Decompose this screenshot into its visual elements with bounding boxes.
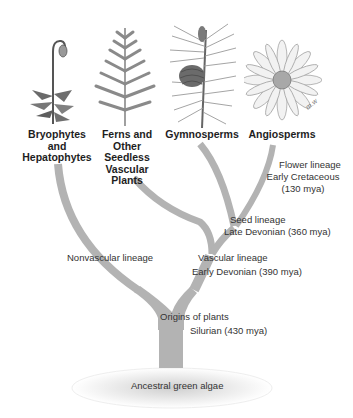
flower-lineage-date: (130 mya)	[256, 183, 350, 195]
vascular-lineage-period: Early Devonian (390 mya)	[192, 266, 302, 278]
vascular-lineage-note: Vascular lineage Early Devonian (390 mya…	[198, 252, 302, 278]
ancestral-algae-label: Ancestral green algae	[131, 380, 223, 391]
origins-label: Origins of plants	[160, 311, 267, 323]
nonvascular-lineage-note: Nonvascular lineage	[67, 252, 153, 264]
vascular-lineage-label: Vascular lineage	[198, 252, 302, 264]
origins-note: Origins of plants Silurian (430 mya)	[160, 311, 267, 337]
seed-lineage-label: Seed lineage	[229, 214, 331, 226]
group-label-bryophytes: Bryophytes and Hepatophytes	[12, 129, 102, 164]
plant-phylogeny-diagram: m.w Bryophytes and Hepatophytes Ferns	[0, 0, 353, 418]
flower-lineage-label: Flower lineage	[256, 159, 350, 171]
group-label-angiosperms: Angiosperms	[240, 129, 324, 141]
group-label-gymnosperms: Gymnosperms	[160, 129, 244, 141]
seed-lineage-period: Late Devonian (360 mya)	[224, 226, 331, 238]
group-label-ferns: Ferns and Other Seedless Vascular Plants	[96, 129, 158, 187]
origins-period: Silurian (430 mya)	[190, 325, 267, 337]
seed-lineage-note: Seed lineage Late Devonian (360 mya)	[229, 214, 331, 238]
flower-lineage-note: Flower lineage Early Cretaceous (130 mya…	[256, 159, 350, 195]
nonvascular-lineage-label: Nonvascular lineage	[67, 252, 153, 264]
lineage-tree	[0, 0, 353, 418]
ferns-branch	[134, 178, 212, 254]
flower-lineage-period: Early Cretaceous	[256, 171, 350, 183]
